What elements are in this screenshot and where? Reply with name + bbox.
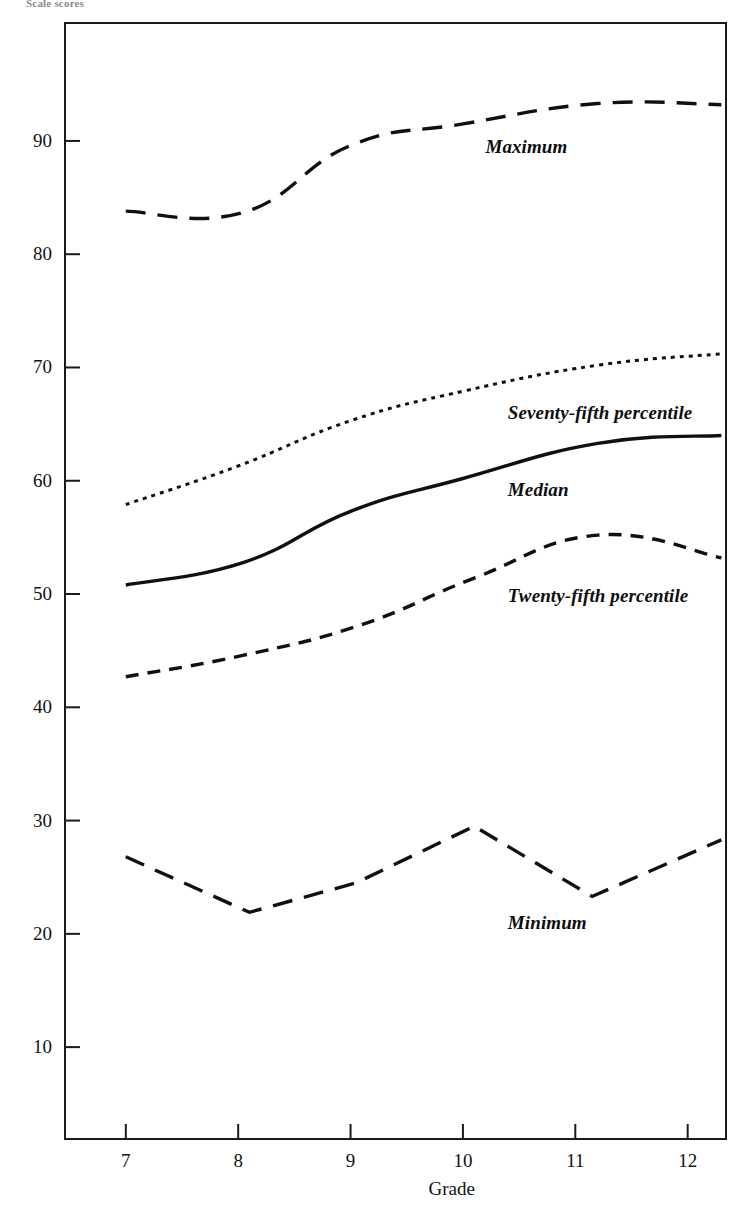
x-tick-label: 10 (443, 1150, 483, 1172)
y-tick-label: 70 (8, 356, 52, 378)
y-tick-label: 50 (8, 583, 52, 605)
y-tick-label: 30 (8, 810, 52, 832)
y-axis-title: Scale scores (26, 0, 84, 9)
x-tick-label: 8 (218, 1150, 258, 1172)
x-tick-label: 9 (331, 1150, 371, 1172)
series-label-maximum: Maximum (485, 136, 567, 158)
chart-figure: Scale scores 908070605040302010 78910111… (0, 0, 745, 1208)
series-label-median: Median (508, 479, 569, 501)
x-tick-label: 11 (555, 1150, 595, 1172)
plot-frame (64, 22, 727, 1140)
x-axis-title: Grade (392, 1178, 512, 1200)
series-label-twenty-fifth-percentile: Twenty-fifth percentile (508, 585, 688, 607)
y-tick-label: 10 (8, 1036, 52, 1058)
x-tick-label: 12 (668, 1150, 708, 1172)
y-tick-label: 60 (8, 470, 52, 492)
y-tick-label: 90 (8, 130, 52, 152)
series-label-seventy-fifth-percentile: Seventy-fifth percentile (508, 402, 692, 424)
y-tick-label: 40 (8, 696, 52, 718)
y-tick-label: 20 (8, 923, 52, 945)
series-label-minimum: Minimum (508, 912, 587, 934)
x-tick-label: 7 (106, 1150, 146, 1172)
y-tick-label: 80 (8, 243, 52, 265)
